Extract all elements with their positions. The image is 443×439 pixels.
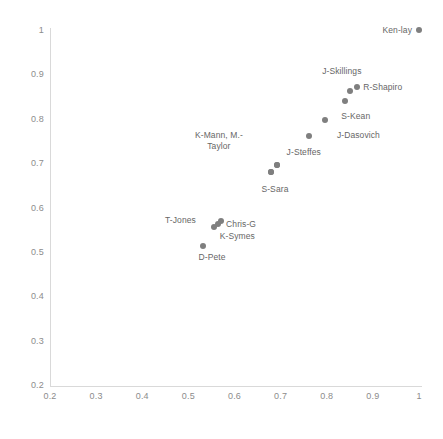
point-label: T-Jones — [165, 214, 196, 225]
point-label: K-Mann, M.- Taylor — [195, 130, 243, 152]
point-label: D-Pete — [199, 252, 226, 263]
scatter-chart: 0.20.30.40.50.60.70.80.91 0.20.30.40.50.… — [0, 0, 443, 439]
data-point[interactable] — [322, 117, 328, 123]
point-label: Chris-G — [226, 219, 256, 230]
data-point[interactable] — [200, 243, 206, 249]
data-point[interactable] — [416, 27, 422, 33]
data-point[interactable] — [211, 224, 217, 230]
x-axis-tick-label: 1 — [416, 391, 421, 401]
point-label: J-Dasovich — [337, 130, 380, 141]
data-point[interactable] — [354, 84, 360, 90]
plot-area: Ken-layR-ShapiroJ-SkillingsS-KeanJ-Dasov… — [50, 30, 419, 385]
x-axis-tick-label: 0.9 — [366, 391, 379, 401]
x-axis-tick-label: 0.8 — [320, 391, 333, 401]
x-axis-tick-label: 0.3 — [90, 391, 103, 401]
point-label: Ken-lay — [382, 25, 412, 36]
point-label: S-Kean — [341, 111, 370, 122]
x-axis-tick-label: 0.5 — [182, 391, 195, 401]
x-axis-tick-label: 0.2 — [43, 391, 56, 401]
point-label: S-Sara — [261, 184, 288, 195]
x-axis-tick-label: 0.7 — [274, 391, 287, 401]
point-label: J-Skillings — [322, 65, 361, 76]
x-axis-tick-label: 0.4 — [136, 391, 149, 401]
data-point[interactable] — [274, 162, 280, 168]
data-point[interactable] — [342, 98, 348, 104]
data-point[interactable] — [306, 133, 312, 139]
data-point[interactable] — [347, 88, 353, 94]
point-label: J-Steffes — [287, 146, 321, 157]
point-label: R-Shapiro — [363, 81, 402, 92]
data-point[interactable] — [268, 169, 274, 175]
x-axis-tick-label: 0.6 — [228, 391, 241, 401]
point-label: K-Symes — [220, 231, 255, 242]
